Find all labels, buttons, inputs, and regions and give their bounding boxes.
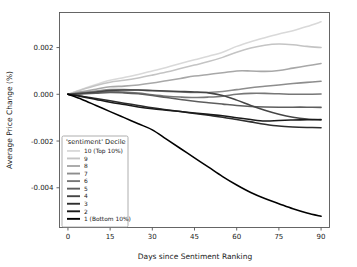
- x-tick-label: 15: [106, 233, 115, 241]
- plot-background: [0, 0, 357, 267]
- legend-label-9: 9: [84, 156, 88, 162]
- legend-label-8: 8: [84, 163, 88, 169]
- x-tick-label: 90: [317, 233, 326, 241]
- legend-label-2: 2: [84, 209, 88, 215]
- x-tick-label: 75: [274, 233, 283, 241]
- x-tick-label: 45: [190, 233, 199, 241]
- x-axis-title: Days since Sentiment Ranking: [138, 252, 253, 261]
- legend-label-7: 7: [84, 171, 88, 177]
- x-tick-label: 0: [66, 233, 70, 241]
- legend-label-6: 6: [84, 178, 88, 184]
- legend-label-3: 3: [84, 201, 88, 207]
- legend-title: 'sentiment' Decile: [66, 138, 126, 146]
- y-tick-label: -0.002: [31, 138, 54, 146]
- y-tick-label: -0.004: [31, 184, 54, 192]
- chart-legend: 'sentiment' Decile10 (Top 10%)987654321 …: [62, 136, 131, 227]
- x-tick-label: 60: [232, 233, 241, 241]
- legend-label-5: 5: [84, 186, 88, 192]
- y-tick-label: 0.002: [33, 44, 53, 52]
- chart-figure: 01530456075900.0020.000-0.002-0.004 'sen…: [0, 0, 357, 267]
- legend-label-4: 4: [84, 193, 88, 199]
- legend-label-10-top-10-: 10 (Top 10%): [84, 148, 123, 155]
- chart-canvas: 01530456075900.0020.000-0.002-0.004 'sen…: [0, 0, 357, 267]
- x-tick-label: 30: [148, 233, 157, 241]
- y-tick-label: 0.000: [33, 91, 53, 99]
- y-axis-title: Average Price Change (%): [5, 71, 14, 169]
- legend-label-1-bottom-10-: 1 (Bottom 10%): [84, 216, 131, 222]
